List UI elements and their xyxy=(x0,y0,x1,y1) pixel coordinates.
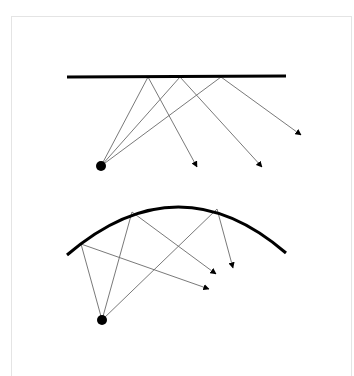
curved-reflected-ray-1 xyxy=(81,244,209,289)
flat-mirror xyxy=(67,76,286,77)
flat-reflected-ray-1 xyxy=(148,77,197,167)
curved-light-source xyxy=(97,315,107,325)
flat-reflected-ray-3 xyxy=(221,77,301,135)
curved-reflected-ray-2 xyxy=(132,212,216,274)
flat-light-source xyxy=(96,161,106,171)
flat-reflected-ray-2 xyxy=(180,77,262,167)
flat-mirror-panel xyxy=(67,76,301,171)
curved-mirror-panel xyxy=(67,207,286,325)
flat-incident-ray-3 xyxy=(101,77,221,166)
curved-incident-ray-1 xyxy=(81,244,102,320)
curved-incident-ray-3 xyxy=(102,209,217,320)
